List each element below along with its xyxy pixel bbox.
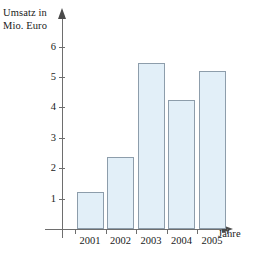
x-axis-tick-label: 2002 xyxy=(105,235,137,246)
y-axis-tick-label: 1 xyxy=(38,194,56,205)
y-axis-tick xyxy=(59,138,65,139)
y-axis-tick-label: 4 xyxy=(38,102,56,113)
bar xyxy=(199,71,226,229)
y-axis-tick xyxy=(59,47,65,48)
bar xyxy=(107,157,134,229)
x-axis-tick-label: 2004 xyxy=(166,235,198,246)
bar xyxy=(138,63,165,229)
y-axis-tick xyxy=(59,168,65,169)
bar-chart-figure: Umsatz in Mio. Euro 123456 2001200220032… xyxy=(0,0,256,254)
y-axis-arrowhead xyxy=(58,8,66,19)
y-axis-tick-label: 3 xyxy=(38,133,56,144)
y-axis-tick-label: 5 xyxy=(38,72,56,83)
y-axis-tick-label: 2 xyxy=(38,163,56,174)
bar xyxy=(77,192,104,229)
y-axis-label: Umsatz in Mio. Euro xyxy=(3,7,47,32)
x-axis-tick xyxy=(106,229,107,234)
x-axis-tick xyxy=(167,229,168,234)
x-axis-tick-label: 2001 xyxy=(74,235,106,246)
x-axis-tick xyxy=(197,229,198,234)
x-axis-tick-label: 2003 xyxy=(135,235,167,246)
y-axis-tick-label: 6 xyxy=(38,42,56,53)
y-axis-tick xyxy=(59,199,65,200)
x-axis-label: Jahre xyxy=(218,228,241,239)
y-axis-line xyxy=(62,16,63,238)
y-axis-tick xyxy=(59,77,65,78)
x-axis-tick xyxy=(136,229,137,234)
bar xyxy=(168,100,195,229)
x-axis-tick xyxy=(75,229,76,234)
y-axis-tick xyxy=(59,107,65,108)
